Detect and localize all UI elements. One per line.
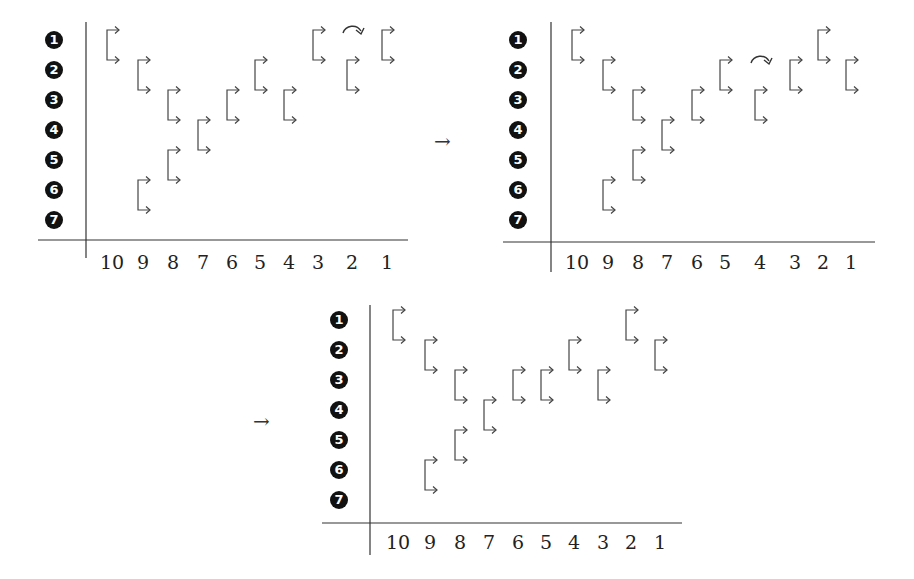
column-label-6: 6: [512, 533, 524, 552]
gate-bracket: [168, 147, 180, 184]
row-label-4: 4: [509, 121, 527, 139]
row-label-7: 7: [330, 491, 348, 509]
row-label-6: 6: [509, 181, 527, 199]
gate-bracket: [347, 57, 359, 94]
transition-arrow-icon: →: [253, 411, 270, 431]
gate-bracket: [168, 87, 180, 124]
column-label-3: 3: [789, 253, 801, 272]
gate-bracket: [541, 367, 553, 404]
gate-bracket: [198, 117, 210, 154]
gate-bracket: [227, 87, 239, 124]
column-label-9: 9: [602, 253, 614, 272]
column-label-10: 10: [565, 253, 589, 272]
gate-bracket: [393, 307, 405, 344]
gate-bracket: [484, 397, 496, 434]
column-label-4: 4: [754, 253, 766, 272]
gate-bracket: [603, 177, 615, 214]
row-label-1: 1: [330, 311, 348, 329]
column-label-3: 3: [597, 533, 609, 552]
column-label-8: 8: [454, 533, 466, 552]
column-label-2: 2: [817, 253, 829, 272]
column-label-10: 10: [100, 253, 124, 272]
row-label-1: 1: [509, 31, 527, 49]
row-label-3: 3: [45, 91, 63, 109]
column-label-5: 5: [254, 253, 266, 272]
gate-bracket: [755, 87, 767, 124]
row-label-1: 1: [45, 31, 63, 49]
column-label-3: 3: [312, 253, 324, 272]
column-label-1: 1: [381, 253, 393, 272]
column-label-2: 2: [625, 533, 637, 552]
row-label-5: 5: [330, 431, 348, 449]
row-label-7: 7: [509, 211, 527, 229]
column-label-1: 1: [654, 533, 666, 552]
gate-bracket: [692, 87, 704, 124]
diagram-canvas: [0, 0, 914, 579]
gate-bracket: [138, 177, 150, 214]
column-label-5: 5: [540, 533, 552, 552]
gate-bracket: [603, 57, 615, 94]
gate-bracket: [382, 27, 394, 64]
rotation-arrow-icon: [343, 26, 364, 34]
gate-bracket: [425, 457, 437, 494]
row-label-2: 2: [509, 61, 527, 79]
gate-bracket: [313, 27, 325, 64]
column-label-8: 8: [167, 253, 179, 272]
column-label-1: 1: [845, 253, 857, 272]
rotation-arrow-icon: [751, 56, 772, 64]
gate-bracket: [569, 337, 581, 374]
row-label-2: 2: [45, 61, 63, 79]
gate-bracket: [455, 427, 467, 464]
gate-bracket: [818, 27, 830, 64]
row-label-3: 3: [330, 371, 348, 389]
row-label-6: 6: [330, 461, 348, 479]
gate-bracket: [633, 147, 645, 184]
column-label-4: 4: [568, 533, 580, 552]
gate-bracket: [626, 307, 638, 344]
row-label-6: 6: [45, 181, 63, 199]
column-label-10: 10: [386, 533, 410, 552]
gate-bracket: [107, 27, 119, 64]
gate-bracket: [138, 57, 150, 94]
column-label-7: 7: [197, 253, 209, 272]
gate-bracket: [598, 367, 610, 404]
row-label-3: 3: [509, 91, 527, 109]
row-label-7: 7: [45, 211, 63, 229]
column-label-7: 7: [661, 253, 673, 272]
gate-bracket: [655, 337, 667, 374]
row-label-4: 4: [45, 121, 63, 139]
gate-bracket: [255, 57, 267, 94]
column-label-7: 7: [483, 533, 495, 552]
gate-bracket: [513, 367, 525, 404]
row-label-5: 5: [509, 151, 527, 169]
column-label-8: 8: [632, 253, 644, 272]
row-label-5: 5: [45, 151, 63, 169]
row-label-4: 4: [330, 401, 348, 419]
gate-bracket: [284, 87, 296, 124]
row-label-2: 2: [330, 341, 348, 359]
column-label-2: 2: [346, 253, 358, 272]
gate-bracket: [846, 57, 858, 94]
gate-bracket: [662, 117, 674, 154]
figure: 1234567109876543211234567109876543211234…: [0, 0, 914, 579]
gate-bracket: [572, 27, 584, 64]
gate-bracket: [633, 87, 645, 124]
gate-bracket: [425, 337, 437, 374]
column-label-5: 5: [719, 253, 731, 272]
column-label-6: 6: [691, 253, 703, 272]
column-label-9: 9: [424, 533, 436, 552]
column-label-9: 9: [137, 253, 149, 272]
column-label-6: 6: [226, 253, 238, 272]
gate-bracket: [720, 57, 732, 94]
column-label-4: 4: [283, 253, 295, 272]
gate-bracket: [455, 367, 467, 404]
gate-bracket: [790, 57, 802, 94]
transition-arrow-icon: →: [434, 131, 451, 151]
